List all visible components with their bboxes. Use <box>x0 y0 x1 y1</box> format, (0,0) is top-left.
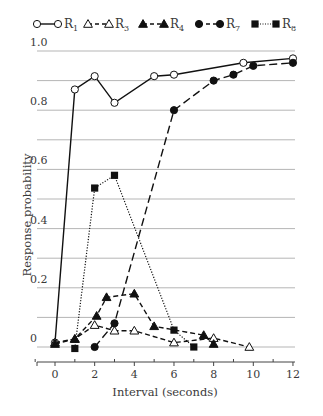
y-tick-label: 0 <box>30 332 37 345</box>
series-R7 <box>91 59 297 350</box>
legend-label-R3: R3 <box>115 17 129 33</box>
legend-label-R4: R4 <box>170 17 184 33</box>
y-tick-label: 0.8 <box>30 95 48 108</box>
legend-item-R4: R4 <box>139 17 185 33</box>
legend-label-subscript: 3 <box>124 24 129 33</box>
legend-label-subscript: 7 <box>235 24 240 33</box>
x-axis-label: Interval (seconds) <box>112 385 217 399</box>
legend-marker-R8 <box>251 20 258 27</box>
legend-marker-R1 <box>33 20 40 27</box>
legend-marker-R7 <box>195 20 202 27</box>
data-point-R7 <box>111 320 118 327</box>
legend-item-R7: R7 <box>195 17 240 33</box>
data-point-R8 <box>111 172 118 179</box>
data-point-R8 <box>170 327 177 334</box>
x-tick-label: 10 <box>246 368 260 381</box>
legend-label-R8: R8 <box>282 17 296 33</box>
line-chart: R1R3R4R7R8 00.20.40.60.81.0 024681012 In… <box>0 0 323 416</box>
series-line-R8 <box>75 175 194 348</box>
legend-marker-R1 <box>54 20 61 27</box>
data-point-R4 <box>130 289 139 297</box>
series-line-R1 <box>55 58 293 342</box>
legend-item-R1: R1 <box>33 17 78 33</box>
data-point-R1 <box>111 99 118 106</box>
legend-label-subscript: 4 <box>179 24 184 33</box>
series-line-R7 <box>95 63 293 347</box>
data-point-R7 <box>91 343 98 350</box>
data-point-R1 <box>71 86 78 93</box>
data-point-R7 <box>170 107 177 114</box>
x-axis: 024681012 <box>35 359 300 381</box>
legend-label-subscript: 1 <box>73 24 78 33</box>
data-point-R1 <box>170 71 177 78</box>
series-R4 <box>51 289 218 347</box>
legend-label-subscript: 8 <box>291 24 296 33</box>
x-tick-label: 12 <box>286 368 300 381</box>
legend-label-R1: R1 <box>64 17 78 33</box>
grid <box>37 51 295 347</box>
x-tick-label: 8 <box>210 368 217 381</box>
data-point-R1 <box>240 59 247 66</box>
x-tick-label: 0 <box>52 368 59 381</box>
data-point-R4 <box>150 322 159 330</box>
data-point-R3 <box>245 343 254 351</box>
legend-item-R3: R3 <box>84 17 130 33</box>
series-R1 <box>51 55 296 346</box>
data-point-R1 <box>91 73 98 80</box>
legend-label-R7: R7 <box>226 17 240 33</box>
data-point-R8 <box>190 343 197 350</box>
data-point-R7 <box>230 71 237 78</box>
legend-marker-R7 <box>216 20 223 27</box>
x-tick-label: 4 <box>131 368 138 381</box>
data-point-R7 <box>250 62 257 69</box>
x-tick-label: 2 <box>91 368 98 381</box>
legend-item-R8: R8 <box>251 17 296 33</box>
data-point-R7 <box>289 59 296 66</box>
data-point-R8 <box>71 345 78 352</box>
legend: R1R3R4R7R8 <box>33 17 296 33</box>
data-point-R1 <box>151 73 158 80</box>
y-axis-label: Response probability <box>20 153 34 276</box>
x-tick-label: 6 <box>170 368 177 381</box>
data-point-R8 <box>91 184 98 191</box>
legend-marker-R8 <box>272 20 279 27</box>
data-point-R7 <box>210 77 217 84</box>
data-point-R4 <box>92 312 101 320</box>
plot-area <box>51 55 297 352</box>
y-tick-label: 1.0 <box>30 36 48 49</box>
